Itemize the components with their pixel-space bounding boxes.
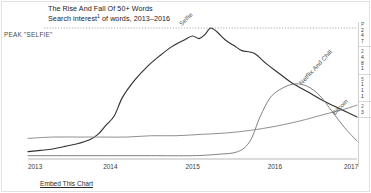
x-tick-label-2016: 2016: [268, 163, 282, 170]
side-data-panel[interactable]: P2472481511123: [358, 22, 371, 167]
x-tick-label-2017: 2017: [344, 163, 358, 170]
side-panel-group: 23: [359, 104, 371, 118]
x-tick-label-2014: 2014: [103, 163, 117, 170]
side-panel-row: 7: [361, 39, 371, 45]
series-paths-group: [28, 28, 357, 156]
side-panel-row: 1: [361, 66, 371, 72]
series-line-netflix-and-chill[interactable]: [28, 84, 357, 156]
side-panel-group: 2481: [359, 49, 371, 74]
side-panel-group: P247: [359, 22, 371, 47]
series-line-selfie[interactable]: [28, 28, 357, 152]
side-panel-row: 3: [361, 110, 371, 116]
x-tick-label-2013: 2013: [28, 163, 42, 170]
side-panel-row: 1: [361, 94, 371, 100]
x-tick-label-2015: 2015: [186, 163, 200, 170]
side-panel-group: 5111: [359, 77, 371, 102]
embed-this-chart-link[interactable]: Embed This Chart: [40, 180, 93, 187]
series-line-bitcoin[interactable]: [28, 105, 357, 138]
chart-card: The Rise And Fall Of 50+ Words Search in…: [0, 0, 371, 193]
